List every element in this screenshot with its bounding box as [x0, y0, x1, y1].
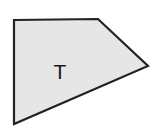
- shape-label: T: [54, 60, 67, 83]
- quadrilateral-shape: [14, 19, 148, 124]
- diagram-canvas: T: [0, 0, 153, 130]
